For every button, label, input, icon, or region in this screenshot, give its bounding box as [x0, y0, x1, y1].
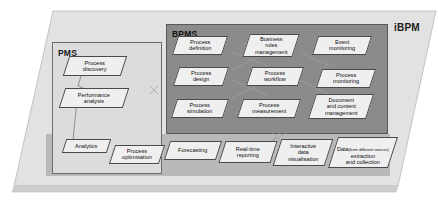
node-label: Process optimisation	[120, 148, 154, 161]
node-analytics[interactable]: Analytics	[62, 139, 112, 153]
node-process-definition[interactable]: Process definition	[172, 36, 228, 55]
node-business-rules-management[interactable]: Business rules management	[242, 34, 299, 57]
node-process-discovery[interactable]: Process discovery	[63, 56, 127, 76]
node-label: Process simulation	[185, 102, 214, 115]
node-label: Forecasting	[176, 147, 209, 153]
node-process-simulation[interactable]: Process simulation	[171, 99, 229, 118]
node-label: Process monitoring	[331, 72, 361, 85]
node-forecasting[interactable]: Forecasting	[164, 141, 222, 160]
node-performance-analysis[interactable]: Performance analysis	[59, 88, 129, 108]
node-real-time-reporting[interactable]: Real-time reporting	[218, 141, 277, 163]
node-label: Process design	[189, 70, 213, 83]
node-process-optimisation[interactable]: Process optimisation	[109, 145, 165, 164]
node-label: Process measurement	[250, 102, 288, 115]
node-process-workflow[interactable]: Process workflow	[246, 67, 304, 86]
node-label: Process discovery	[81, 60, 109, 73]
node-event-monitoring[interactable]: Event monitoring	[312, 36, 372, 55]
node-label: Analytics	[73, 143, 99, 149]
node-interactive-data-visualisation[interactable]: Interactive data visualisation	[273, 139, 334, 166]
node-label-main: Data	[337, 146, 349, 152]
node-process-design[interactable]: Process design	[173, 67, 229, 86]
node-label: Process definition	[187, 39, 213, 52]
node-document-and-content-management[interactable]: Document and content management	[308, 94, 374, 119]
node-label: Real-time reporting	[234, 146, 262, 159]
node-label-sub: (from different sources)	[349, 147, 389, 152]
node-label: Interactive data visualisation	[286, 143, 320, 162]
node-process-measurement[interactable]: Process measurement	[237, 99, 301, 118]
node-label: Data(from different sources)extraction a…	[335, 140, 391, 166]
node-label: Process workflow	[262, 70, 288, 83]
diagram-canvas: BPMS PMS iBPM Process discovery Performa…	[0, 0, 438, 202]
node-process-monitoring[interactable]: Process monitoring	[316, 69, 376, 88]
node-label: Event monitoring	[327, 39, 357, 52]
node-label: Business rules management	[253, 36, 290, 55]
node-label: Performance analysis	[76, 92, 112, 105]
node-data-extraction-and-collection[interactable]: Data(from different sources)extraction a…	[328, 137, 398, 168]
node-label: Document and content management	[323, 97, 360, 116]
node-label-rest: extraction and collection	[346, 153, 380, 165]
